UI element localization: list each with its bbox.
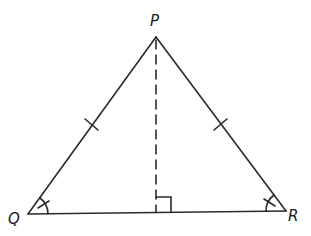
right-angle-mark — [156, 197, 171, 212]
vertex-label-r: R — [288, 207, 298, 225]
triangle-diagram: P Q R — [0, 0, 311, 236]
side-qr — [28, 211, 286, 214]
vertex-label-q: Q — [8, 210, 20, 228]
vertex-label-p: P — [150, 12, 160, 30]
